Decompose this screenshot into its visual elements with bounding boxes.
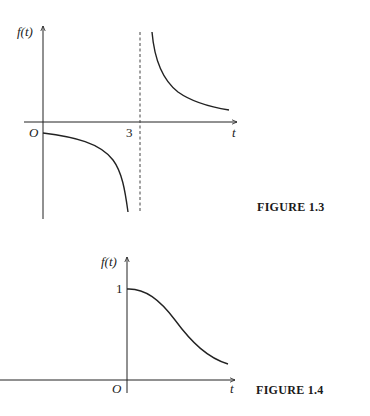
fig14-origin-label: O [112, 381, 122, 396]
fig13-x-label: t [232, 125, 236, 140]
figure-1-4-caption: FIGURE 1.4 [256, 383, 324, 398]
fig14-y-label: f(t) [101, 254, 117, 269]
figure-1-4-plot: f(t) 1 O t [0, 254, 235, 396]
fig14-x-label: t [230, 381, 234, 396]
fig13-right-branch [152, 32, 229, 110]
fig13-y-label: f(t) [17, 24, 33, 39]
fig14-y-tick-1: 1 [116, 281, 123, 296]
figure-1-3-plot: f(t) O 3 t [17, 24, 237, 219]
fig14-curve [127, 289, 228, 364]
figure-1-3-caption: FIGURE 1.3 [257, 200, 325, 215]
fig13-asymptote-label: 3 [126, 125, 133, 140]
fig13-origin-label: O [29, 125, 39, 140]
fig13-left-branch [43, 133, 128, 212]
